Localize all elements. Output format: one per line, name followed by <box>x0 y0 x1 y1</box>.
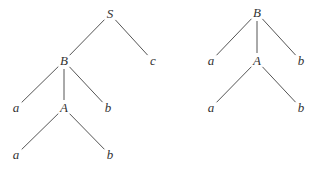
tree-edge <box>262 67 295 102</box>
tree-node-B: B <box>253 5 261 20</box>
tree-node-a: a <box>208 100 215 115</box>
right-tree: BaAbab <box>208 5 305 115</box>
tree-edge <box>22 67 59 103</box>
tree-node-c: c <box>150 53 156 68</box>
parse-trees-diagram: SBcaAbabBaAbab <box>0 0 320 170</box>
tree-node-S: S <box>107 6 114 21</box>
tree-edge <box>217 67 252 103</box>
tree-node-b: b <box>105 100 112 115</box>
tree-node-A: A <box>59 100 68 115</box>
tree-node-a: a <box>208 53 215 68</box>
tree-edge <box>70 20 105 56</box>
tree-node-a: a <box>13 100 20 115</box>
tree-edge <box>262 19 295 55</box>
tree-node-B: B <box>60 53 68 68</box>
tree-edge <box>115 20 147 55</box>
tree-node-b: b <box>107 147 114 162</box>
tree-edge <box>70 114 105 150</box>
tree-edge <box>217 19 252 55</box>
left-tree: SBcaAbab <box>13 6 156 162</box>
tree-edge <box>69 67 102 102</box>
tree-node-A: A <box>252 53 261 68</box>
tree-node-b: b <box>298 53 305 68</box>
tree-node-a: a <box>13 147 20 162</box>
tree-node-b: b <box>298 100 305 115</box>
tree-edge <box>22 114 59 150</box>
